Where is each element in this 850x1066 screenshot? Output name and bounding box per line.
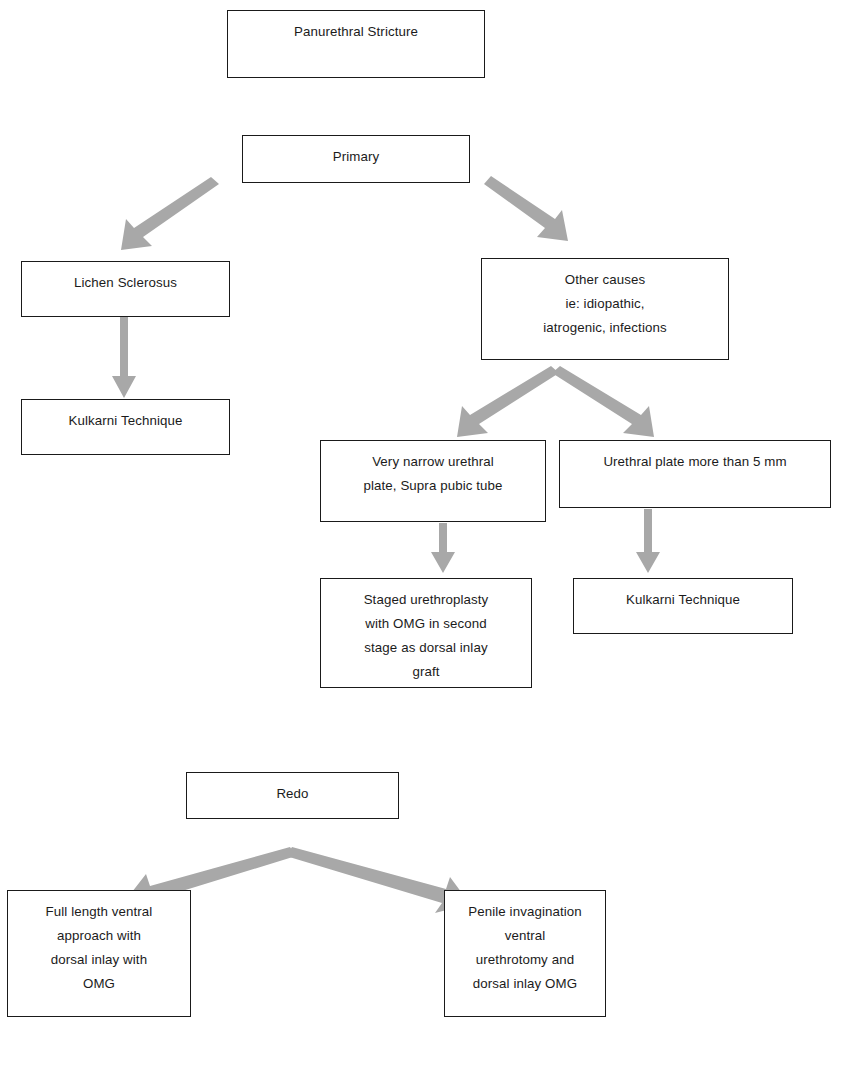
node-label: Staged urethroplasty with OMG in second … xyxy=(321,579,531,684)
arrow-primary-to-other-causes xyxy=(484,176,568,241)
node-penile-invagination[interactable]: Penile invagination ventral urethrotomy … xyxy=(444,890,606,1017)
node-label: Other causes ie: idiopathic, iatrogenic,… xyxy=(482,259,728,340)
node-urethral-plate-more-than-5mm[interactable]: Urethral plate more than 5 mm xyxy=(559,440,831,508)
arrow-other-causes-to-plate-5mm xyxy=(552,366,654,437)
node-label: Lichen Sclerosus xyxy=(22,262,229,295)
node-kulkarni-technique-left[interactable]: Kulkarni Technique xyxy=(21,399,230,455)
node-label: Urethral plate more than 5 mm xyxy=(560,441,830,474)
node-label: Panurethral Stricture xyxy=(228,11,484,44)
node-other-causes[interactable]: Other causes ie: idiopathic, iatrogenic,… xyxy=(481,258,729,360)
node-label: Primary xyxy=(243,136,469,169)
arrow-very-narrow-to-staged xyxy=(431,523,455,573)
arrow-other-causes-to-very-narrow xyxy=(457,366,559,437)
node-label: Kulkarni Technique xyxy=(22,400,229,433)
arrow-plate-5mm-to-kulkarni xyxy=(636,509,660,573)
arrow-primary-to-lichen xyxy=(121,177,219,250)
node-primary[interactable]: Primary xyxy=(242,135,470,183)
node-full-length-ventral-approach[interactable]: Full length ventral approach with dorsal… xyxy=(7,890,191,1017)
node-label: Full length ventral approach with dorsal… xyxy=(8,891,190,996)
node-label: Redo xyxy=(187,773,398,806)
node-label: Very narrow urethral plate, Supra pubic … xyxy=(321,441,545,498)
node-label: Kulkarni Technique xyxy=(574,579,792,612)
node-label: Penile invagination ventral urethrotomy … xyxy=(445,891,605,996)
node-panurethral-stricture[interactable]: Panurethral Stricture xyxy=(227,10,485,78)
arrow-redo-to-penile xyxy=(286,847,470,913)
node-lichen-sclerosus[interactable]: Lichen Sclerosus xyxy=(21,261,230,317)
node-staged-urethroplasty[interactable]: Staged urethroplasty with OMG in second … xyxy=(320,578,532,688)
node-very-narrow-urethral-plate[interactable]: Very narrow urethral plate, Supra pubic … xyxy=(320,440,546,522)
arrow-lichen-to-kulkarni xyxy=(112,316,136,398)
node-kulkarni-technique-right[interactable]: Kulkarni Technique xyxy=(573,578,793,634)
node-redo[interactable]: Redo xyxy=(186,772,399,819)
flowchart-canvas: Panurethral Stricture Primary Lichen Scl… xyxy=(0,0,850,1066)
